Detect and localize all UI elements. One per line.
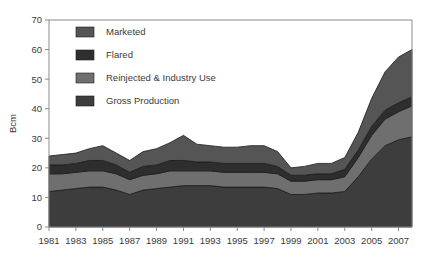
y-tick-label: 0 xyxy=(37,221,42,232)
legend-label-flared: Flared xyxy=(106,49,133,60)
x-tick-label: 1995 xyxy=(227,235,248,246)
x-tick-label: 1987 xyxy=(119,235,140,246)
x-tick-label: 1997 xyxy=(254,235,275,246)
legend-swatch-reinjected-industry-use xyxy=(76,73,94,83)
y-tick-label: 70 xyxy=(31,14,42,25)
x-tick-label: 1999 xyxy=(280,235,301,246)
y-tick-label: 20 xyxy=(31,162,42,173)
x-tick-label: 2001 xyxy=(307,235,328,246)
y-tick-label: 10 xyxy=(31,192,42,203)
x-tick-label: 1989 xyxy=(146,235,167,246)
y-axis-title: Bcm xyxy=(7,114,18,133)
x-tick-label: 2003 xyxy=(334,235,355,246)
x-tick-label: 1993 xyxy=(200,235,221,246)
x-tick-label: 1983 xyxy=(65,235,86,246)
x-tick-label: 1991 xyxy=(173,235,194,246)
legend-swatch-flared xyxy=(76,50,94,60)
legend-swatch-marketed xyxy=(76,27,94,37)
legend-swatch-gross-production xyxy=(76,96,94,106)
y-tick-label: 30 xyxy=(31,133,42,144)
y-tick-label: 60 xyxy=(31,44,42,55)
x-tick-label: 1981 xyxy=(38,235,59,246)
x-tick-label: 2005 xyxy=(361,235,382,246)
stacked-area-chart: 0102030405060701981198319851987198919911… xyxy=(0,0,426,261)
legend-label-marketed: Marketed xyxy=(106,26,146,37)
y-tick-label: 50 xyxy=(31,74,42,85)
x-tick-label: 2007 xyxy=(388,235,409,246)
legend-label-reinjected-industry-use: Reinjected & Industry Use xyxy=(106,72,216,83)
legend-label-gross-production: Gross Production xyxy=(106,95,179,106)
chart-canvas: 0102030405060701981198319851987198919911… xyxy=(0,0,426,261)
y-tick-label: 40 xyxy=(31,103,42,114)
x-tick-label: 1985 xyxy=(92,235,113,246)
